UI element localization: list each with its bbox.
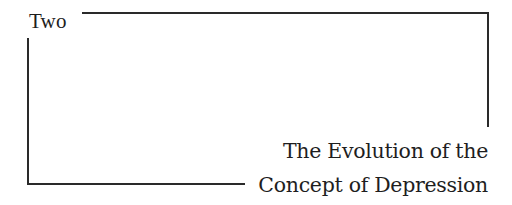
- frame-rule-top: [82, 12, 489, 14]
- chapter-title-line-2: Concept of Depression: [258, 168, 488, 202]
- chapter-title-line-1: The Evolution of the: [258, 134, 488, 168]
- chapter-title: The Evolution of the Concept of Depressi…: [258, 134, 488, 202]
- frame-rule-left: [27, 38, 29, 185]
- frame-rule-right: [487, 12, 489, 127]
- frame-rule-bottom: [27, 183, 245, 185]
- chapter-number: Two: [29, 9, 67, 33]
